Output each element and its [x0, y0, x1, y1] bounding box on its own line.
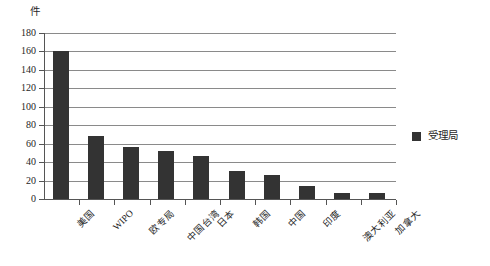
gridline: [44, 107, 396, 108]
gridline: [44, 125, 396, 126]
y-axis-tick-label: 80: [0, 120, 36, 130]
bar-chart: 件 020406080100120140160180 美国WIPO欧专局中国台湾…: [0, 0, 490, 266]
x-axis-tick: [220, 200, 221, 205]
y-axis-tick-label: 20: [0, 176, 36, 186]
x-axis-label: 澳大利亚: [362, 208, 398, 244]
y-axis-tick-label: 100: [0, 102, 36, 112]
plot-area: [44, 33, 396, 199]
gridline: [44, 88, 396, 89]
x-axis-tick: [290, 200, 291, 205]
y-axis-line: [44, 33, 45, 200]
bar: [88, 136, 104, 199]
gridline: [44, 51, 396, 52]
x-axis-label: 日本: [215, 208, 237, 230]
x-axis-tick: [255, 200, 256, 205]
y-axis-tick-label: 40: [0, 157, 36, 167]
x-axis-label: 欧专局: [148, 208, 177, 237]
bar: [299, 186, 315, 199]
y-axis-tick-label: 60: [0, 139, 36, 149]
x-axis-label: 加拿大: [394, 208, 423, 237]
x-axis-label: 印度: [321, 208, 343, 230]
x-axis-label: 韩国: [250, 208, 272, 230]
bar: [229, 171, 245, 199]
y-axis-tick-label: 120: [0, 83, 36, 93]
x-axis-tick: [396, 200, 397, 205]
x-axis-tick: [361, 200, 362, 205]
x-axis-tick: [79, 200, 80, 205]
bar: [123, 147, 139, 199]
y-axis-tick-label: 140: [0, 65, 36, 75]
y-axis-tick-label: 180: [0, 28, 36, 38]
bar: [264, 175, 280, 199]
gridline: [44, 70, 396, 71]
x-axis-label: 美国: [74, 208, 96, 230]
y-axis-unit-label: 件: [30, 6, 40, 18]
gridline: [44, 33, 396, 34]
x-axis-tick: [185, 200, 186, 205]
x-axis-label: WIPO: [111, 208, 136, 233]
y-axis-tick-label: 0: [0, 194, 36, 204]
bar: [158, 151, 174, 199]
x-axis-tick: [114, 200, 115, 205]
x-axis-label: 中国: [286, 208, 308, 230]
bar: [53, 51, 69, 199]
x-axis-tick: [326, 200, 327, 205]
legend: 受理局: [412, 130, 458, 142]
y-axis-tick-label: 160: [0, 46, 36, 56]
x-axis-tick: [150, 200, 151, 205]
legend-swatch-icon: [412, 132, 421, 141]
bar: [193, 156, 209, 199]
x-axis-label: 中国台湾: [186, 208, 222, 244]
legend-label: 受理局: [428, 130, 458, 142]
